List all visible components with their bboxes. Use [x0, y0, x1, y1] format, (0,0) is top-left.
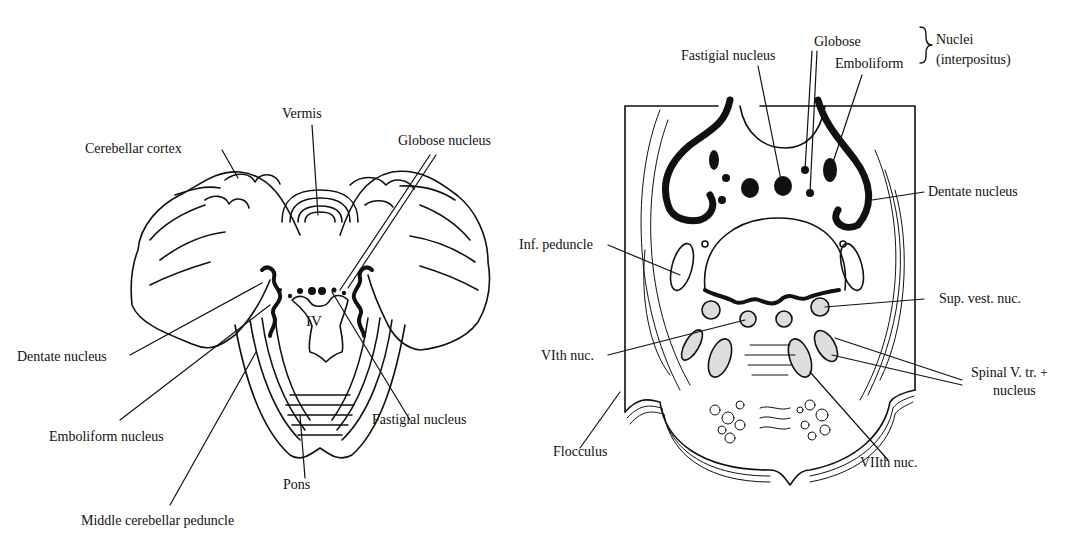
viith-nuc-left [704, 336, 736, 380]
label-interpositus: (interpositus) [936, 52, 1011, 68]
diagram-canvas [0, 0, 1089, 551]
label-pons: Pons [283, 477, 310, 493]
vith-nuc-left [740, 311, 756, 327]
spinal-v-left [677, 327, 706, 363]
spinal-v-right [810, 327, 843, 365]
label-fourth-ventricle: IV [306, 313, 322, 329]
label-inf-peduncle: Inf. peduncle [519, 237, 593, 253]
right-medulla-section [625, 100, 915, 485]
label-vith-nuc: VIth nuc. [541, 348, 594, 364]
label-flocculus: Flocculus [553, 444, 607, 460]
fourth-ventricle-right [705, 218, 846, 290]
right-hemisphere-cortex [340, 171, 490, 350]
label-nucleus: nucleus [993, 383, 1036, 399]
label-dentate-nucleus: Dentate nucleus [17, 349, 107, 365]
dentate-left [262, 268, 280, 336]
label-nuclei: Nuclei [936, 32, 973, 48]
pons-outline [235, 325, 405, 458]
label-dentate-nucleus-right: Dentate nucleus [928, 184, 1018, 200]
label-spinal-v-tr: Spinal V. tr. + [971, 365, 1048, 381]
sup-vest-nuc-left [702, 301, 720, 319]
label-viith-nuc: VIIth nuc. [860, 455, 918, 471]
label-cerebellar-cortex: Cerebellar cortex [85, 141, 182, 157]
label-emboliform: Emboliform [835, 56, 903, 72]
label-globose: Globose [814, 34, 861, 50]
label-sup-vest-nuc: Sup. vest. nuc. [939, 291, 1021, 307]
vith-nuc-right [776, 311, 792, 327]
label-fastigial-nucleus-left: Fastigial nucleus [372, 412, 467, 428]
inf-peduncle-right [836, 241, 868, 293]
dentate-nucleus-shape [665, 100, 868, 227]
label-globose-nucleus: Globose nucleus [398, 133, 491, 149]
inf-peduncle-left [666, 241, 698, 293]
label-fastigial-nucleus-right: Fastigial nucleus [681, 48, 776, 64]
label-emboliform-nucleus: Emboliform nucleus [49, 429, 164, 445]
label-middle-cerebellar-peduncle: Middle cerebellar peduncle [81, 513, 234, 529]
label-vermis: Vermis [282, 106, 322, 122]
nuclei-brace [920, 27, 932, 63]
